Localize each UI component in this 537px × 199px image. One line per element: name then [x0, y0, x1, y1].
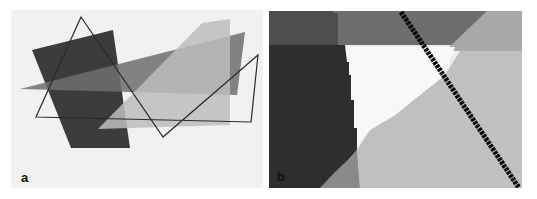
- figure-canvas: [0, 0, 537, 199]
- panel-label-a: a: [21, 171, 28, 184]
- panel-a-shapes: [20, 17, 258, 148]
- top-left-dark-region: [269, 11, 338, 45]
- panel-label-b: b: [277, 170, 285, 183]
- panel-b-shapes: [269, 11, 522, 188]
